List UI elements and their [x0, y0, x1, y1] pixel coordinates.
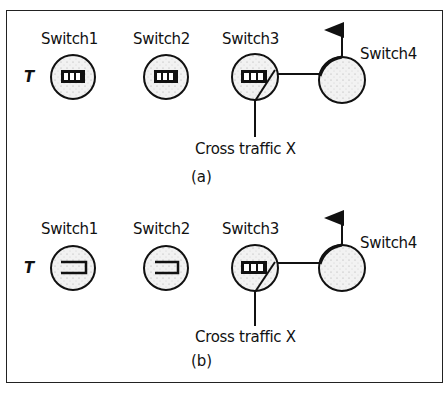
input-label-t: T [24, 259, 34, 277]
queue-full-icon [154, 70, 178, 83]
switch4-label: Switch4 [360, 45, 417, 63]
queue-full-icon [241, 70, 267, 83]
switch1-node [51, 246, 95, 290]
input-label-t: T [24, 68, 34, 86]
panel-caption-b: (b) [191, 352, 212, 370]
panel-caption-a: (a) [191, 168, 212, 186]
panel-a [51, 30, 365, 137]
switch3-label: Switch3 [222, 220, 279, 238]
cross-traffic-label: Cross traffic X [195, 140, 296, 158]
switch2-node [144, 246, 188, 290]
switch2-label: Switch2 [133, 220, 190, 238]
switch2-label: Switch2 [133, 30, 190, 48]
switch1-label: Switch1 [41, 220, 98, 238]
cross-traffic-label: Cross traffic X [195, 328, 296, 346]
queue-full-icon [241, 261, 267, 274]
switch1-label: Switch1 [41, 30, 98, 48]
switch3-label: Switch3 [222, 30, 279, 48]
switch4-label: Switch4 [360, 234, 417, 252]
queue-full-icon [61, 70, 85, 83]
panel-b [51, 218, 365, 326]
